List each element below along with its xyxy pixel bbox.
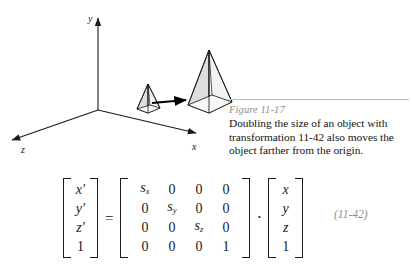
rhs-column-vector: x y z 1 bbox=[267, 178, 304, 258]
caption-text: Doubling the size of an object with tran… bbox=[229, 117, 409, 158]
cell-m-1-0: 0 bbox=[131, 199, 158, 218]
matrix-row: 0 0 sz 0 bbox=[131, 218, 239, 237]
matrix-row: 1 bbox=[279, 237, 292, 256]
cell-lhs-1: y′ bbox=[74, 199, 87, 218]
cell-rhs-3: 1 bbox=[279, 237, 292, 256]
large-pyramid bbox=[188, 50, 232, 113]
matrix-row: x′ bbox=[74, 180, 87, 199]
matrix-row: 1 bbox=[74, 237, 87, 256]
matrix-row: z bbox=[279, 218, 292, 237]
z-axis-label: z bbox=[20, 144, 25, 155]
matrix-row: sx 0 0 0 bbox=[131, 180, 239, 199]
cell-m-2-3: 0 bbox=[212, 218, 239, 237]
bracket-left-icon bbox=[120, 178, 128, 258]
cell-m-1-1: sy bbox=[158, 197, 185, 220]
figure-illustration: y x z bbox=[0, 0, 240, 165]
figure-number-label: Figure 11-17 bbox=[229, 103, 409, 116]
matrix-row: x bbox=[279, 180, 292, 199]
cell-m-2-0: 0 bbox=[131, 218, 158, 237]
x-axis bbox=[98, 110, 196, 133]
cell-lhs-2: z′ bbox=[74, 218, 87, 237]
y-axis-label: y bbox=[87, 13, 93, 24]
x-axis-label: x bbox=[191, 141, 197, 152]
multiplication-dot: · bbox=[251, 213, 267, 223]
cell-m-2-1: 0 bbox=[158, 218, 185, 237]
bracket-left-icon bbox=[63, 178, 71, 258]
z-axis bbox=[12, 110, 98, 140]
equation-11-42: x′ y′ z′ 1 = sx 0 0 0 0 s bbox=[62, 178, 304, 258]
small-pyramid bbox=[137, 84, 160, 113]
cell-lhs-3: 1 bbox=[74, 237, 87, 256]
bracket-right-icon bbox=[90, 178, 98, 258]
cell-m-3-2: 0 bbox=[185, 237, 212, 256]
matrix-row: 0 sy 0 0 bbox=[131, 199, 239, 218]
cell-rhs-0: x bbox=[279, 180, 292, 199]
cell-m-3-1: 0 bbox=[158, 237, 185, 256]
cell-lhs-0: x′ bbox=[74, 180, 87, 199]
figure-caption: Figure 11-17 Doubling the size of an obj… bbox=[229, 99, 409, 158]
cell-m-0-3: 0 bbox=[212, 180, 239, 199]
cell-m-0-1: 0 bbox=[158, 180, 185, 199]
bracket-right-icon bbox=[295, 178, 303, 258]
bracket-right-icon bbox=[242, 178, 250, 258]
matrix-row: 0 0 0 1 bbox=[131, 237, 239, 256]
cell-m-3-0: 0 bbox=[131, 237, 158, 256]
bracket-left-icon bbox=[268, 178, 276, 258]
cell-m-0-0: sx bbox=[131, 178, 158, 201]
matrix-row: y′ bbox=[74, 199, 87, 218]
scaling-matrix: sx 0 0 0 0 sy 0 0 0 0 sz 0 0 0 0 1 bbox=[119, 178, 251, 258]
cell-m-1-3: 0 bbox=[212, 199, 239, 218]
equation-number: (11-42) bbox=[334, 208, 368, 220]
caption-divider bbox=[229, 99, 409, 100]
equals-sign: = bbox=[99, 210, 119, 227]
cell-m-2-2: sz bbox=[185, 216, 212, 239]
cell-rhs-1: y bbox=[279, 199, 292, 218]
matrix-row: y bbox=[279, 199, 292, 218]
lhs-column-vector: x′ y′ z′ 1 bbox=[62, 178, 99, 258]
matrix-row: z′ bbox=[74, 218, 87, 237]
cell-rhs-2: z bbox=[279, 218, 292, 237]
cell-m-1-2: 0 bbox=[185, 199, 212, 218]
cell-m-3-3: 1 bbox=[212, 237, 239, 256]
cell-m-0-2: 0 bbox=[185, 180, 212, 199]
